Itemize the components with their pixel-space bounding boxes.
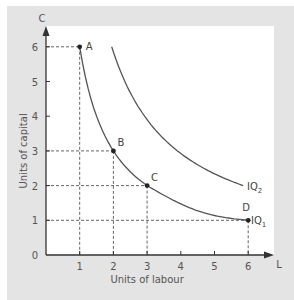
x-tick-label: 4 (178, 261, 184, 272)
point-label-b: B (117, 137, 124, 148)
point-label-d: D (242, 202, 250, 213)
data-point-b (111, 149, 116, 154)
x-tick-label: 3 (144, 261, 150, 272)
data-point-d (246, 218, 251, 223)
x-tick-label: 6 (245, 261, 251, 272)
x-axis-title: Units of labour (110, 274, 184, 285)
x-tick-label: 2 (110, 261, 116, 272)
chart-frame: 1234560123456CLUnits of labourUnits of c… (0, 0, 294, 300)
y-tick-label: 5 (32, 77, 38, 88)
plot-area (46, 26, 274, 255)
isoquant-chart: 1234560123456CLUnits of labourUnits of c… (0, 0, 294, 300)
y-tick-label: 3 (32, 146, 38, 157)
y-tick-label: 4 (32, 111, 38, 122)
y-tick-label: 2 (32, 181, 38, 192)
y-tick-label: 6 (32, 42, 38, 53)
data-point-a (77, 44, 82, 49)
point-label-c: C (151, 172, 158, 183)
x-axis-end-label: L (276, 259, 282, 270)
data-point-c (145, 183, 150, 188)
y-tick-label: 1 (32, 215, 38, 226)
point-label-a: A (86, 41, 93, 52)
y-tick-label: 0 (32, 250, 38, 261)
y-axis-end-label: C (39, 13, 46, 24)
x-tick-label: 5 (211, 261, 217, 272)
x-tick-label: 1 (77, 261, 83, 272)
y-axis-title: Units of capital (18, 113, 29, 188)
